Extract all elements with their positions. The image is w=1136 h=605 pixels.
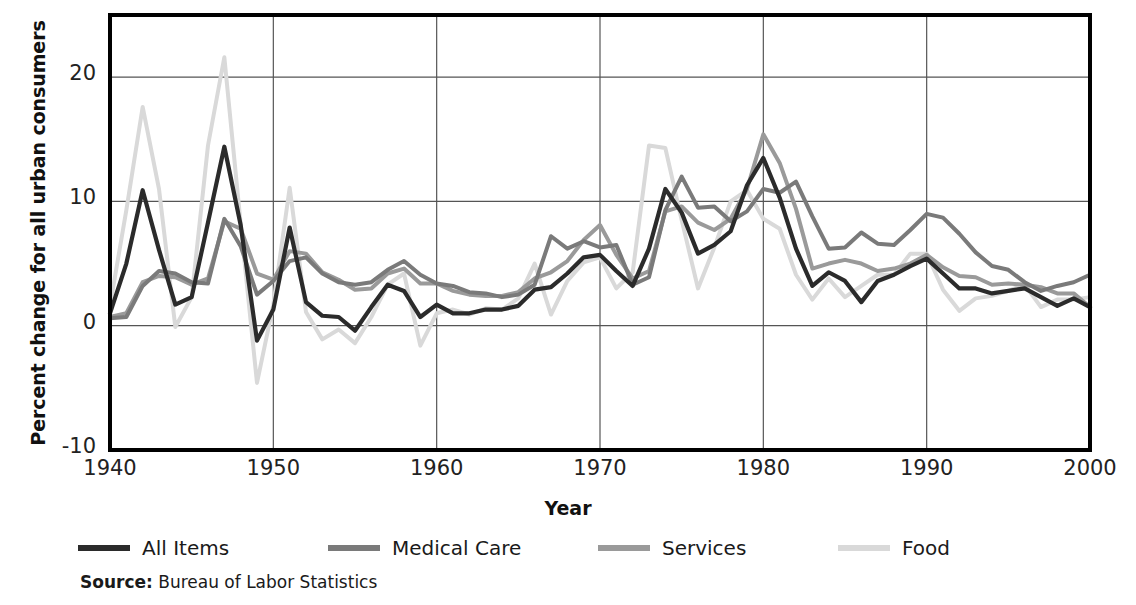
x-tick-label: 1980 <box>718 458 808 479</box>
x-axis-title: Year <box>0 497 1136 519</box>
legend-swatch-icon <box>78 545 130 551</box>
legend-label: Food <box>902 536 950 560</box>
legend-swatch-icon <box>598 545 650 551</box>
y-tick-label: -10 <box>34 436 96 457</box>
source-value: Bureau of Labor Statistics <box>153 572 378 592</box>
chart-legend: All ItemsMedical CareServicesFood <box>78 533 978 563</box>
legend-item[interactable]: Food <box>838 536 950 560</box>
legend-swatch-icon <box>328 545 380 551</box>
legend-item[interactable]: Medical Care <box>328 536 521 560</box>
x-tick-label: 1970 <box>555 458 645 479</box>
y-tick-label: 20 <box>34 63 96 84</box>
x-tick-label: 1960 <box>392 458 482 479</box>
source-label: Source: <box>80 572 153 592</box>
y-tick-label: 0 <box>34 312 96 333</box>
legend-label: All Items <box>142 536 229 560</box>
legend-label: Medical Care <box>392 536 521 560</box>
legend-item[interactable]: Services <box>598 536 746 560</box>
x-tick-label: 1940 <box>65 458 155 479</box>
legend-label: Services <box>662 536 746 560</box>
legend-item[interactable]: All Items <box>78 536 229 560</box>
legend-swatch-icon <box>838 545 890 551</box>
y-tick-label: 10 <box>34 187 96 208</box>
x-tick-label: 1950 <box>228 458 318 479</box>
x-tick-label: 2000 <box>1045 458 1135 479</box>
x-tick-label: 1990 <box>882 458 972 479</box>
source-note: Source: Bureau of Labor Statistics <box>80 572 377 592</box>
chart-figure: Percent change for all urban consumers -… <box>0 0 1136 605</box>
